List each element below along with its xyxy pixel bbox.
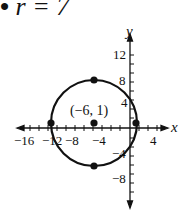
top-point [90, 76, 97, 83]
y-tick-label: 4 [121, 95, 128, 110]
x-tick-label: −8 [65, 133, 79, 148]
circle-graph: x y −16 −12 −8 −4 4 12 8 4 −4 −8 (−6, 1) [0, 0, 183, 213]
y-tick-label: −8 [112, 171, 126, 186]
left-point [47, 119, 54, 126]
right-point [132, 119, 139, 126]
x-tick-label: 4 [150, 133, 157, 148]
x-tick-label: −4 [92, 133, 106, 148]
y-tick-label: 8 [119, 73, 126, 88]
bottom-point [90, 162, 97, 169]
center-label: (−6, 1) [70, 103, 109, 119]
y-axis [128, 34, 133, 208]
x-axis-label: x [170, 119, 178, 135]
x-tick-label: −16 [14, 133, 35, 148]
center-point [90, 119, 97, 126]
y-axis-label: y [124, 23, 133, 39]
y-tick-label: 12 [113, 47, 126, 62]
